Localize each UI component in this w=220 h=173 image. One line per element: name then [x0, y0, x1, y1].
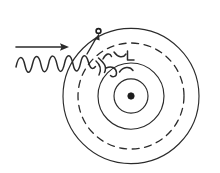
- scribble-mark-2: [114, 52, 126, 57]
- photon-wave-group: [16, 56, 96, 73]
- electron-dot: [96, 29, 101, 34]
- scribble-mark-7: [96, 61, 100, 75]
- scribble-mark-1: [103, 54, 112, 59]
- photon-wave-line: [16, 56, 96, 73]
- scribble-marks-group: [96, 51, 134, 77]
- diagram-canvas: [0, 0, 220, 173]
- excitation-arrowhead: [93, 34, 99, 42]
- atom-photon-diagram: [0, 0, 220, 173]
- nucleus-group: [128, 93, 134, 99]
- scribble-mark-6: [120, 67, 134, 72]
- electron-group: [96, 29, 101, 34]
- nucleus-dot: [128, 93, 134, 99]
- scribble-mark-3: [128, 51, 135, 60]
- excitation-arrow: [87, 34, 100, 55]
- photon-direction-arrow: [16, 43, 69, 51]
- scribble-mark-5: [106, 67, 117, 77]
